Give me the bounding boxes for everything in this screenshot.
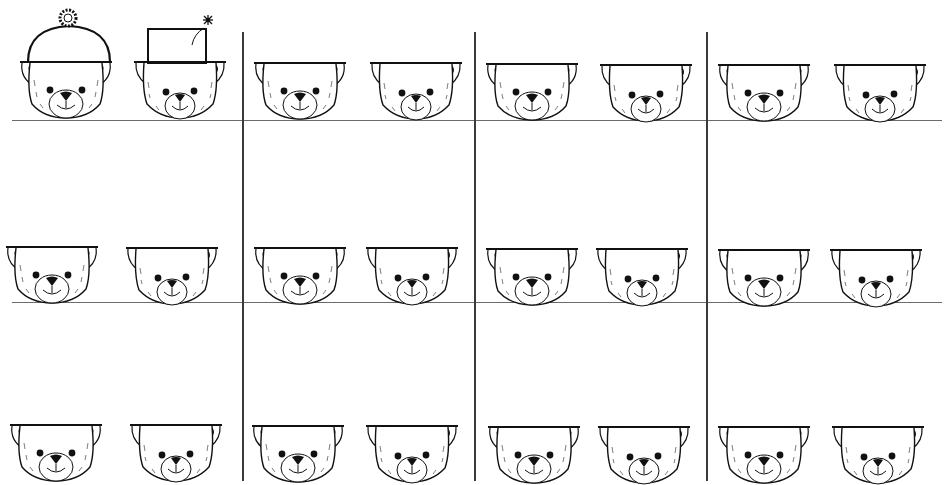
bear-face-icon — [252, 61, 348, 121]
bear-face-icon — [364, 246, 460, 306]
bear-face-icon — [4, 245, 100, 305]
bear-face-icon — [128, 423, 224, 483]
bear-face-icon — [124, 246, 220, 306]
bear-face-icon — [18, 60, 114, 120]
column-divider-line — [474, 32, 476, 481]
bear-face-icon — [716, 248, 812, 308]
bear-face-icon — [716, 425, 812, 485]
bear-face-icon — [830, 425, 926, 485]
bear-face-icon — [132, 60, 228, 120]
bear-face-icon — [368, 61, 464, 121]
bear-face-icon — [598, 63, 694, 123]
bear-face-icon — [832, 63, 928, 123]
bear-face-icon — [484, 62, 580, 122]
top-hat-with-flower-icon — [130, 10, 220, 64]
bear-face-icon — [486, 425, 582, 485]
beanie-hat-icon — [24, 8, 114, 64]
bear-face-icon — [8, 423, 104, 483]
column-divider-line — [706, 32, 708, 481]
bear-face-icon — [716, 63, 812, 123]
bear-face-icon — [596, 425, 692, 485]
bear-face-icon — [594, 247, 690, 307]
bear-face-icon — [252, 246, 348, 306]
bear-face-icon — [250, 424, 346, 484]
column-divider-line — [242, 32, 244, 481]
bear-face-icon — [828, 248, 924, 308]
bear-face-icon — [484, 247, 580, 307]
bear-face-icon — [364, 424, 460, 484]
